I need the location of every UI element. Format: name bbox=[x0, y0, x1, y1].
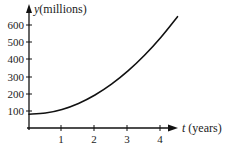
x-axis-arrow-icon bbox=[168, 125, 178, 132]
y-tick-label: 300 bbox=[8, 71, 25, 83]
x-tick-label: 4 bbox=[157, 133, 163, 145]
y-axis-arrow-icon bbox=[26, 4, 32, 13]
x-tick-label: 3 bbox=[124, 133, 130, 145]
data-curve bbox=[29, 17, 178, 115]
y-tick-label: 600 bbox=[8, 19, 25, 31]
x-tick-label: 2 bbox=[91, 133, 97, 145]
y-tick-label: 200 bbox=[8, 88, 25, 100]
y-axis-label: y(millions) bbox=[33, 2, 87, 16]
y-tick-label: 400 bbox=[8, 53, 25, 65]
x-axis-label: t (years) bbox=[182, 121, 222, 135]
x-tick-label: 1 bbox=[58, 133, 64, 145]
y-tick-label: 100 bbox=[8, 105, 25, 117]
y-tick-labels: 100 200 300 400 500 600 bbox=[8, 19, 25, 117]
x-tick-labels: 1 2 3 4 bbox=[58, 133, 163, 145]
y-tick-label: 500 bbox=[8, 36, 25, 48]
chart-canvas: 100 200 300 400 500 600 1 2 3 4 y(millio… bbox=[0, 0, 225, 148]
